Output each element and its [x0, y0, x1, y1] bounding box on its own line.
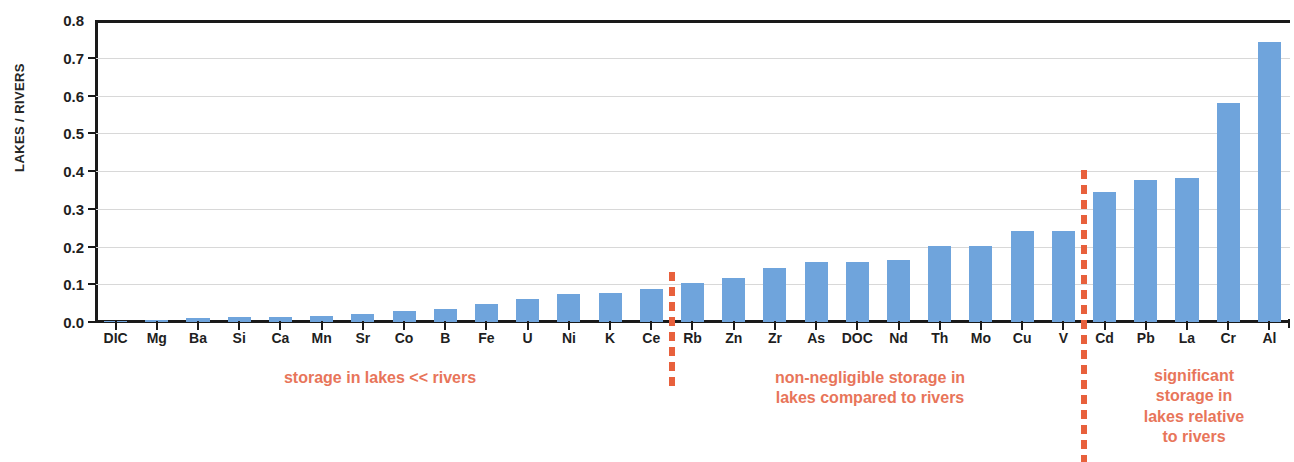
x-tick-label: Co	[395, 330, 414, 346]
x-tick-mark	[980, 321, 982, 330]
bar[interactable]	[969, 246, 992, 322]
bar-slot[interactable]	[1125, 20, 1166, 322]
bar-slot[interactable]	[631, 20, 672, 322]
x-tick-label: U	[523, 330, 533, 346]
bar-series	[95, 20, 1290, 322]
bar[interactable]	[1011, 231, 1034, 322]
bar-slot[interactable]	[219, 20, 260, 322]
x-tick-label: Sr	[355, 330, 370, 346]
x-tick-mark	[115, 321, 117, 330]
bar-slot[interactable]	[1249, 20, 1290, 322]
bar-slot[interactable]	[960, 20, 1001, 322]
x-tick-label: Zr	[768, 330, 782, 346]
bar[interactable]	[516, 299, 539, 322]
x-tick-mark	[1021, 321, 1023, 330]
x-tick-mark	[1268, 321, 1270, 330]
bar[interactable]	[928, 246, 951, 322]
bar-slot[interactable]	[672, 20, 713, 322]
bar-slot[interactable]	[425, 20, 466, 322]
bar-slot[interactable]	[1043, 20, 1084, 322]
bar-slot[interactable]	[342, 20, 383, 322]
x-tick-label: B	[440, 330, 450, 346]
bar[interactable]	[1217, 103, 1240, 322]
bar-slot[interactable]	[136, 20, 177, 322]
bar-slot[interactable]	[713, 20, 754, 322]
bar[interactable]	[1175, 178, 1198, 322]
x-tick-label: As	[807, 330, 825, 346]
x-tick-mark	[774, 321, 776, 330]
x-tick-label: K	[605, 330, 615, 346]
bar-slot[interactable]	[1002, 20, 1043, 322]
bar-slot[interactable]	[301, 20, 342, 322]
bar-slot[interactable]	[837, 20, 878, 322]
y-tick-label: 0.5	[24, 125, 84, 142]
x-tick-label: Fe	[478, 330, 494, 346]
x-tick-label: Cd	[1095, 330, 1114, 346]
bar-slot[interactable]	[466, 20, 507, 322]
y-tick-label: 0.7	[24, 49, 84, 66]
x-tick-mark	[1227, 321, 1229, 330]
bar-slot[interactable]	[796, 20, 837, 322]
bar[interactable]	[846, 262, 869, 322]
x-tick-label: Mo	[971, 330, 991, 346]
x-tick-mark	[939, 321, 941, 330]
bar-slot[interactable]	[754, 20, 795, 322]
bar-slot[interactable]	[95, 20, 136, 322]
bar[interactable]	[887, 260, 910, 322]
bar-slot[interactable]	[177, 20, 218, 322]
y-tick-label: 0.2	[24, 238, 84, 255]
bar[interactable]	[557, 294, 580, 322]
x-tick-mark	[568, 321, 570, 330]
bar[interactable]	[1093, 192, 1116, 322]
x-tick-label: Ca	[271, 330, 289, 346]
x-tick-label: DOC	[842, 330, 873, 346]
bar-slot[interactable]	[1166, 20, 1207, 322]
bar-slot[interactable]	[260, 20, 301, 322]
bar[interactable]	[599, 293, 622, 322]
bar[interactable]	[805, 262, 828, 322]
x-tick-mark	[1145, 321, 1147, 330]
x-tick-mark	[197, 321, 199, 330]
x-tick-mark	[321, 321, 323, 330]
x-tick-mark	[1104, 321, 1106, 330]
y-tick-label: 0.8	[24, 12, 84, 29]
x-tick-mark	[609, 321, 611, 330]
annotation-3: significant storage in lakes relative to…	[1095, 366, 1293, 448]
divider-line	[1081, 170, 1087, 462]
x-tick-label: Cu	[1013, 330, 1032, 346]
bar[interactable]	[640, 289, 663, 322]
x-tick-label: Th	[931, 330, 948, 346]
x-tick-mark	[527, 321, 529, 330]
bar-slot[interactable]	[1084, 20, 1125, 322]
bar-slot[interactable]	[383, 20, 424, 322]
bar[interactable]	[763, 268, 786, 322]
bar[interactable]	[1134, 180, 1157, 322]
x-tick-label: Ba	[189, 330, 207, 346]
x-tick-mark	[898, 321, 900, 330]
y-tick-label: 0.0	[24, 314, 84, 331]
bar[interactable]	[1258, 42, 1281, 322]
bar-slot[interactable]	[507, 20, 548, 322]
x-tick-label: Al	[1262, 330, 1276, 346]
bar-slot[interactable]	[589, 20, 630, 322]
x-tick-label: Si	[233, 330, 246, 346]
bar-slot[interactable]	[1208, 20, 1249, 322]
x-tick-label: Zn	[725, 330, 742, 346]
bar[interactable]	[475, 304, 498, 322]
y-tick-label: 0.4	[24, 163, 84, 180]
y-tick-label: 0.1	[24, 276, 84, 293]
bar-slot[interactable]	[919, 20, 960, 322]
bar-slot[interactable]	[878, 20, 919, 322]
bar[interactable]	[722, 278, 745, 322]
x-tick-label: Ni	[562, 330, 576, 346]
x-tick-mark	[815, 321, 817, 330]
bar[interactable]	[1052, 231, 1075, 322]
x-tick-label: La	[1179, 330, 1195, 346]
x-tick-mark	[279, 321, 281, 330]
x-tick-label: V	[1059, 330, 1068, 346]
bar-slot[interactable]	[548, 20, 589, 322]
bar[interactable]	[681, 283, 704, 322]
x-tick-mark	[1288, 319, 1290, 328]
x-tick-mark	[444, 321, 446, 330]
x-tick-mark	[856, 321, 858, 330]
